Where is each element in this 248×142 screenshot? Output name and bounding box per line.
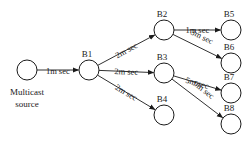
edges-layer: 1m sec2m sec2m sec2m sec1m sec3m sec5m s… xyxy=(37,25,223,118)
node-b7 xyxy=(221,83,241,103)
edge-label-source-b1: 1m sec xyxy=(46,66,70,76)
node-b6 xyxy=(221,53,241,73)
node-label-b1: B1 xyxy=(82,49,93,59)
node-b2 xyxy=(154,20,174,40)
node-label-b3: B3 xyxy=(157,52,168,62)
node-label-b2: B2 xyxy=(157,9,168,19)
node-b1 xyxy=(79,60,99,80)
source-label-line-1: Multicast xyxy=(10,87,44,97)
node-b8 xyxy=(221,114,241,134)
node-source xyxy=(17,60,37,80)
node-label-b8: B8 xyxy=(224,103,235,113)
node-b4 xyxy=(154,105,174,125)
node-label-b4: B4 xyxy=(157,94,168,104)
node-b3 xyxy=(154,63,174,83)
node-label-b6: B6 xyxy=(224,42,235,52)
node-label-b5: B5 xyxy=(224,9,235,19)
edge-label-b1-b2: 2m sec xyxy=(113,40,139,60)
edge-label-b1-b4: 2m sec xyxy=(113,82,139,103)
source-label-line-2: source xyxy=(15,99,39,109)
edge-label-b1-b3: 2m sec xyxy=(114,66,138,77)
node-b5 xyxy=(221,20,241,40)
node-label-b7: B7 xyxy=(224,72,235,82)
multicast-tree-diagram: 1m sec2m sec2m sec2m sec1m sec3m sec5m s… xyxy=(0,0,248,142)
